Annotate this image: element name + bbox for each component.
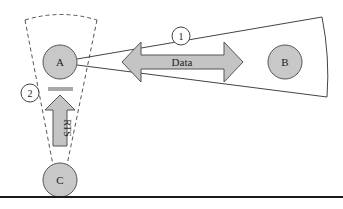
marker-1: 1 — [172, 27, 190, 45]
node-c: C — [43, 163, 77, 197]
data-double-arrow: Data — [122, 42, 243, 82]
marker-2-label: 2 — [28, 88, 33, 99]
node-a-label: A — [56, 56, 64, 68]
diagram-canvas: Data A B C RTS 1 2 — [0, 0, 343, 209]
marker-1-label: 1 — [179, 31, 184, 42]
node-b: B — [268, 45, 302, 79]
node-a: A — [43, 45, 77, 79]
node-b-label: B — [281, 56, 288, 68]
rts-arrow: RTS — [45, 95, 75, 146]
data-arrow-label: Data — [172, 56, 193, 68]
collision-bar — [48, 87, 73, 91]
marker-2: 2 — [21, 84, 39, 102]
node-c-label: C — [56, 174, 63, 186]
rts-arrow-label: RTS — [62, 119, 73, 137]
bottom-rule — [0, 196, 343, 198]
